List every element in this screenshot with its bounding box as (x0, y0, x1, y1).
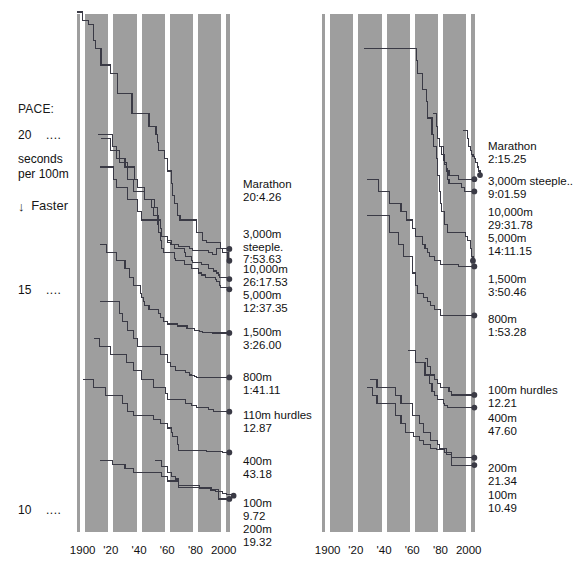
series-3-000m-steeple- (463, 130, 483, 178)
series-200m (370, 379, 477, 461)
series-label-record-time: 1:41.11 (243, 384, 281, 397)
series-label-record-time: 20:4.26 (243, 191, 292, 204)
series-endpoint-marker (226, 375, 232, 381)
series-label-3-000m-steeple-: 3,000m steeple..9:01.59 (488, 175, 573, 200)
series-label-name: 100m hurdles (488, 384, 558, 397)
series-label-100m: 100m10.49 (488, 489, 517, 514)
series-endpoint-marker (471, 264, 477, 270)
series-label-name: 110m hurdles (243, 409, 312, 422)
series-label-name: 3,000m steeple.. (488, 175, 573, 188)
series-line (100, 167, 230, 289)
series-100m (367, 387, 477, 468)
series-label-record-time: 47.60 (488, 425, 517, 438)
series-label-name: 5,000m (488, 232, 532, 245)
series-label-100m: 100m9.72 (243, 497, 272, 522)
down-arrow-icon: ↓ (18, 199, 25, 214)
series-label-800m: 800m1:53.28 (488, 313, 526, 338)
x-tick-2000: 2000 (449, 544, 489, 556)
series-line (367, 387, 474, 465)
series-endpoint-marker (471, 455, 477, 461)
faster-indicator: ↓ Faster (18, 198, 68, 213)
series-label-name: 400m (243, 455, 272, 468)
series-label-100m-hurdles: 100m hurdles12.21 (488, 384, 558, 409)
series-line (367, 216, 474, 316)
series-endpoint-marker (226, 286, 232, 292)
series-label-10-000m: 10,000m26:17.53 (243, 263, 288, 288)
y-tick-dots-20: .... (46, 128, 61, 142)
series-endpoint-marker (226, 450, 232, 456)
legend-block: PACE: (18, 102, 54, 116)
series-100m-hurdles (425, 359, 477, 398)
series-endpoint-marker (226, 330, 232, 336)
series-marathon (77, 12, 232, 264)
series-10-000m (433, 114, 477, 182)
series-label-record-time: 21.34 (488, 475, 517, 488)
series-endpoint-marker (471, 189, 477, 195)
series-label-name: 1,500m (243, 326, 281, 339)
series-line (408, 351, 474, 408)
series-label-name: 1,500m (488, 273, 526, 286)
series-lines-men (77, 14, 235, 532)
series-800m (100, 302, 233, 381)
series-label-name: 10,000m (243, 263, 288, 276)
series-label-name: 3,000m (243, 228, 283, 241)
series-label-record-time: 9:01.59 (488, 188, 573, 201)
series-label-name: Marathon (243, 178, 292, 191)
series-label-record-time: 10.49 (488, 502, 517, 515)
series-label-record-time: 43.18 (243, 468, 272, 481)
y-axis-unit-line2: per 100m (18, 167, 69, 181)
series-label-name: 800m (243, 371, 281, 384)
series-line (101, 138, 229, 254)
series-label-name: 100m (488, 489, 517, 502)
series-3-000m-steeple- (101, 138, 232, 254)
chart-panel-women (322, 14, 480, 532)
series-endpoint-marker (470, 258, 476, 264)
series-label-1-500m: 1,500m3:26.00 (243, 326, 281, 351)
series-label-3-000m: 3,000msteeple.7:53.63 (243, 228, 283, 266)
series-label-200m: 200m21.34 (488, 462, 517, 487)
series-5-000m (100, 167, 233, 292)
series-line (100, 244, 230, 333)
series-label-record-time: 14:11.15 (488, 245, 532, 258)
x-tick-2000: 2000 (204, 544, 244, 556)
series-label-10-000m: 10,000m29:31.78 (488, 206, 533, 231)
series-label-name: Marathon (488, 140, 537, 153)
series-label-marathon: Marathon2:15.25 (488, 140, 537, 165)
series-line (367, 179, 474, 266)
pace-title: PACE: (18, 102, 54, 116)
series-1-500m (367, 179, 477, 269)
series-label-record-time: 12.87 (243, 422, 312, 435)
series-endpoint-marker (471, 313, 477, 319)
series-label-5-000m: 5,000m12:37.35 (243, 289, 288, 314)
series-endpoint-marker (471, 462, 477, 468)
series-label-800m: 800m1:41.11 (243, 371, 281, 396)
y-tick-label-20: 20 (18, 128, 31, 142)
y-tick-dots-15: .... (46, 283, 61, 297)
series-label-400m: 400m47.60 (488, 412, 517, 437)
series-lines-women (322, 14, 480, 532)
series-label-record-time: 12.21 (488, 397, 558, 410)
series-label-record-time: 3:50.46 (488, 286, 526, 299)
series-label-record-time: 12:37.35 (243, 302, 288, 315)
y-tick-label-10: 10 (18, 503, 31, 517)
series-label-record-time: 29:31.78 (488, 219, 533, 232)
series-label-200m: 200m19.32 (243, 523, 272, 548)
series-line (94, 338, 229, 411)
series-label-record-time: 3:26.00 (243, 339, 281, 352)
x-axis-men: 1900'20'40'60'802000 (77, 544, 235, 558)
series-label-400m: 400m43.18 (243, 455, 272, 480)
series-endpoint-marker (226, 496, 232, 502)
series-label-marathon: Marathon20:4.26 (243, 178, 292, 203)
series-label-record-time: 9.72 (243, 510, 272, 523)
series-line (463, 130, 480, 175)
series-endpoint-marker (226, 246, 232, 252)
series-100m (100, 461, 237, 499)
series-label-5-000m: 5,000m14:11.15 (488, 232, 532, 257)
series-line (370, 379, 474, 458)
series-label-name-cont: steeple. (243, 241, 283, 254)
series-endpoint-marker (477, 172, 483, 178)
x-axis-women: 1900'20'40'60'802000 (322, 544, 480, 558)
series-400m (408, 351, 477, 411)
series-label-record-time: 26:17.53 (243, 276, 288, 289)
